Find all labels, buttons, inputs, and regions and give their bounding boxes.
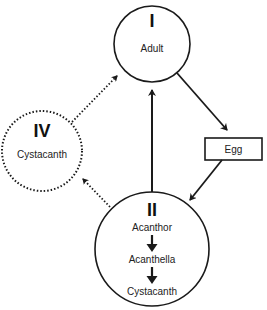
edge-paratenic-to-adult: [72, 76, 117, 122]
node-paratenic-cystacanth: IV Cystacanth: [2, 111, 82, 191]
edge-egg-to-larval: [190, 160, 222, 200]
label-egg: Egg: [225, 144, 243, 155]
label-acanthella: Acanthella: [129, 254, 176, 265]
edge-larval-to-paratenic: [83, 179, 110, 207]
label-cystacanth-ii: Cystacanth: [127, 286, 177, 297]
edge-adult-to-egg: [177, 73, 227, 130]
node-egg: Egg: [205, 138, 262, 160]
life-cycle-diagram: I Adult IV Cystacanth Egg II Acanthor Ac…: [0, 0, 267, 310]
numeral-ii: II: [147, 200, 157, 220]
numeral-i: I: [149, 11, 154, 31]
node-adult: I Adult: [114, 6, 190, 82]
label-adult: Adult: [141, 43, 164, 54]
numeral-iv: IV: [33, 121, 50, 141]
node-larval: II Acanthor Acanthella Cystacanth: [95, 192, 209, 306]
label-cystacanth-iv: Cystacanth: [17, 149, 67, 160]
label-acanthor: Acanthor: [132, 222, 173, 233]
